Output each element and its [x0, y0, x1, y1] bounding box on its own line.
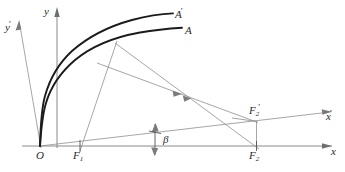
curve-a-prime — [40, 13, 173, 146]
y-prime-axis-mark: ′ — [9, 19, 11, 29]
focus-2-letter: F — [249, 149, 256, 161]
curve-a-label: A — [185, 25, 192, 36]
focus-2-label: F2 — [249, 150, 259, 161]
focus-1-letter: F — [73, 149, 80, 161]
x-prime-axis-label: x′ — [326, 111, 333, 122]
focus-2-prime-label: F2′ — [249, 105, 261, 116]
chord-lower-to-focus-2-prime — [97, 63, 258, 123]
focus-2-prime-mark: ′ — [258, 102, 260, 112]
focus-2-subscript: 2 — [256, 155, 260, 163]
curve-a-prime-label: A′ — [175, 9, 184, 20]
figure-canvas — [0, 0, 345, 172]
focus-1-label: F1 — [73, 150, 83, 161]
focus-2-prime-letter: F — [249, 104, 256, 116]
focus-1-subscript: 1 — [80, 155, 84, 163]
x-axis — [22, 143, 332, 149]
beta-angle-marker — [149, 123, 161, 156]
y-axis-label: y — [44, 6, 49, 17]
origin-label: O — [36, 150, 44, 161]
chord-from-focus-1 — [80, 41, 117, 151]
figure-root: O y y′ x x′ A A′ F1 F2 F2′ β — [0, 0, 345, 172]
x-prime-axis-mark: ′ — [330, 108, 332, 118]
focus-2-prime-leader — [232, 118, 257, 122]
y-prime-axis — [16, 20, 41, 148]
x-axis-label: x — [331, 146, 336, 157]
y-prime-axis-label: y′ — [5, 22, 12, 33]
curve-a-prime-mark: ′ — [181, 6, 183, 16]
beta-angle-label: β — [163, 134, 168, 145]
